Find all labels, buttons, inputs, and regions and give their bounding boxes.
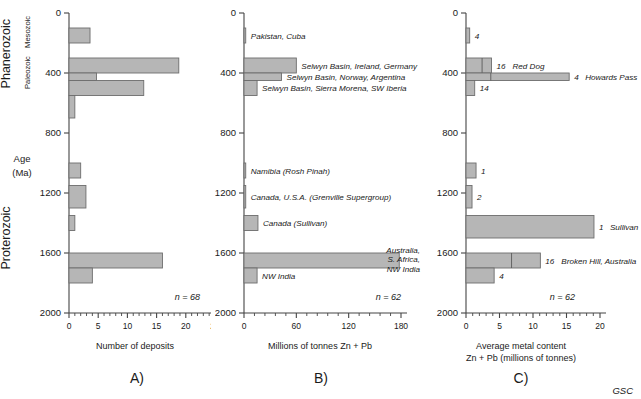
age-tick-label: 800 [442, 127, 458, 138]
age-tick-label: 800 [220, 127, 236, 138]
age-axis-label-line1: Age [14, 153, 31, 164]
bar-annotation: Sullivan [610, 223, 639, 232]
bar [466, 268, 494, 283]
bar [69, 96, 75, 119]
bar [69, 58, 179, 73]
panel-a-n-label: n = 68 [175, 292, 200, 302]
age-tick-label: 0 [231, 7, 236, 18]
sub-era-label: Mesozoic [23, 16, 32, 48]
bar [244, 73, 282, 81]
bar-annotation: S. Africa, [387, 255, 420, 264]
age-tick-label: 1600 [40, 247, 61, 258]
age-tick-label: 2000 [40, 307, 61, 318]
bar-count-label: 16 [545, 257, 555, 266]
panel-c-letter: C) [514, 370, 529, 386]
bar-count-label: 1 [599, 223, 604, 232]
age-tick-label: 1200 [437, 187, 458, 198]
bar [466, 163, 476, 178]
figure-root: PhanerozoicProterozoicMesozoicPaleozoicA… [0, 0, 641, 399]
value-tick-label: 10 [528, 321, 538, 331]
panel-c: 040080012001600200005101520 416Red Dog4H… [425, 0, 636, 399]
panel-a-axes: 04008001200160020000510152025 [40, 7, 211, 331]
bar-annotation: Australia, [385, 246, 420, 255]
age-tick-label: 2000 [437, 307, 458, 318]
bar-annotation: Selwyn Basin, Ireland, Germany [301, 62, 418, 71]
bar-annotation: Broken Hill, Australia [561, 257, 636, 266]
bar-count-label: 2 [476, 193, 482, 202]
bar [69, 186, 86, 209]
bar [466, 28, 470, 43]
bar-annotation: Canada (Sullivan) [263, 219, 328, 228]
bar [69, 81, 144, 96]
bar [69, 28, 90, 43]
bar [244, 28, 246, 43]
panel-a-letter: A) [130, 370, 144, 386]
bar-count-label: 4 [499, 272, 504, 281]
bar-annotation: Selwyn Basin, Sierra Morena, SW Iberia [262, 84, 407, 93]
panel-c-axis-title-line1: Average metal content [476, 341, 566, 351]
bar-annotation: NW India [387, 265, 421, 274]
panel-a: PhanerozoicProterozoicMesozoicPaleozoicA… [0, 0, 211, 399]
panel-b-letter: B) [314, 370, 328, 386]
panel-c-n-label: n = 62 [550, 292, 575, 302]
bar-count-label: 14 [480, 84, 490, 93]
panel-c-axes: 040080012001600200005101520 [437, 7, 606, 331]
bar [244, 81, 257, 96]
panel-c-axis-title-line2: Zn + Pb (millions of tonnes) [466, 353, 576, 363]
bar [466, 58, 491, 73]
bar-count-label: 4 [574, 73, 579, 82]
value-tick-label: 0 [464, 321, 469, 331]
bar [244, 58, 296, 73]
bar [244, 186, 246, 209]
value-tick-label: 15 [152, 321, 162, 331]
bar [69, 163, 81, 178]
bar [244, 163, 246, 178]
panel-a-axis-title: Number of deposits [96, 341, 175, 351]
sub-era-label: Paleozoic [23, 56, 32, 89]
era-label: Phanerozoic [0, 19, 13, 89]
age-tick-label: 800 [45, 127, 61, 138]
value-tick-label: 60 [292, 321, 302, 331]
value-tick-label: 15 [562, 321, 572, 331]
panel-b: 0400800120016002000060120180 Pakistan, C… [215, 0, 426, 399]
bar-annotation: Selwyn Basin, Norway, Argentina [287, 73, 406, 82]
bar-count-label: 16 [496, 62, 506, 71]
age-tick-label: 1600 [437, 247, 458, 258]
panel-a-bars [69, 28, 179, 283]
value-tick-label: 5 [96, 321, 101, 331]
bar [466, 73, 569, 81]
bar [244, 216, 258, 231]
age-axis-label-line2: (Ma) [12, 167, 32, 178]
value-tick-label: 10 [123, 321, 133, 331]
era-labels-group: PhanerozoicProterozoicMesozoicPaleozoicA… [0, 16, 32, 270]
value-tick-label: 0 [242, 321, 247, 331]
panel-b-svg: 0400800120016002000060120180 Pakistan, C… [215, 0, 426, 399]
value-tick-label: 0 [67, 321, 72, 331]
bar [69, 216, 75, 231]
age-tick-label: 400 [45, 67, 61, 78]
age-tick-label: 400 [442, 67, 458, 78]
bar [244, 268, 257, 283]
age-tick-label: 2000 [215, 307, 236, 318]
bar [69, 253, 162, 268]
panel-c-annotations: 416Red Dog4Howards Pass14121Sullivan16Br… [475, 32, 639, 281]
bar [466, 216, 594, 239]
bar-annotation: Canada, U.S.A. (Grenville Supergroup) [251, 193, 392, 202]
age-tick-label: 0 [56, 7, 61, 18]
era-label: Proterozoic [0, 206, 13, 269]
bar-count-label: 4 [475, 32, 480, 41]
bar-annotation: Pakistan, Cuba [251, 32, 306, 41]
panel-b-n-label: n = 62 [376, 292, 401, 302]
bar [466, 81, 475, 96]
panel-c-svg: 040080012001600200005101520 416Red Dog4H… [425, 0, 641, 399]
value-tick-label: 25 [210, 321, 211, 331]
bar [69, 268, 92, 283]
bar-count-label: 1 [481, 167, 486, 176]
bar-annotation: Namibia (Rosh Pinah) [251, 167, 330, 176]
value-tick-label: 20 [181, 321, 191, 331]
value-tick-label: 20 [595, 321, 605, 331]
bar [466, 253, 540, 268]
bar [466, 186, 472, 209]
bar [69, 73, 96, 81]
value-tick-label: 180 [394, 321, 408, 331]
